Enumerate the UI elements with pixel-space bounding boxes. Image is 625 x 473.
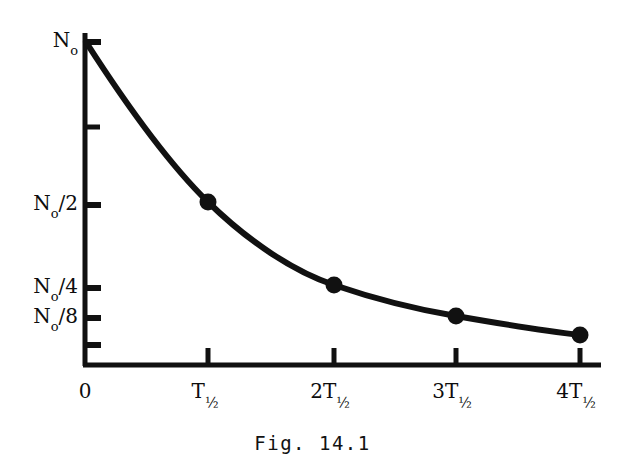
x-axis-ticks xyxy=(208,348,580,365)
x-label-2t-half-base: T xyxy=(323,379,336,403)
y-tick-label-n0-4: No/4 xyxy=(4,276,78,300)
y-tick-label-n0-8: No/8 xyxy=(4,306,78,330)
x-label-3t-half-prefix: 3 xyxy=(432,379,445,403)
x-label-t-half-base: T xyxy=(192,379,205,403)
x-label-4t-half-base: T xyxy=(569,379,582,403)
y-label-n0-subscript: o xyxy=(70,43,78,58)
x-tick-label-3t-half: 3T½ xyxy=(421,381,483,405)
x-label-2t-half-subscript: ½ xyxy=(336,395,350,411)
x-label-4t-half-subscript: ½ xyxy=(582,395,596,411)
x-label-3t-half-base: T xyxy=(445,379,458,403)
y-tick-label-n0: No xyxy=(26,30,78,54)
data-point-4t-half xyxy=(572,327,589,344)
data-point-markers xyxy=(200,194,589,344)
x-tick-label-0: 0 xyxy=(55,381,115,405)
y-label-n0-8-subscript: o xyxy=(51,319,59,334)
y-label-n0-2-suffix: /2 xyxy=(59,191,78,215)
data-point-3t-half xyxy=(448,308,465,325)
figure-container: No No/2 No/4 No/8 0 T½ 2T½ 3T½ 4T½ Fig. … xyxy=(0,0,625,473)
x-label-4t-half-prefix: 4 xyxy=(556,379,569,403)
y-label-n0-4-subscript: o xyxy=(51,289,59,304)
y-label-n0-8-suffix: /8 xyxy=(59,304,78,328)
figure-caption: Fig. 14.1 xyxy=(0,432,625,454)
y-label-n0-base: N xyxy=(53,28,71,52)
x-label-0-prefix: 0 xyxy=(79,379,92,403)
x-label-2t-half-prefix: 2 xyxy=(310,379,323,403)
y-label-n0-4-suffix: /4 xyxy=(59,274,78,298)
y-label-n0-2-base: N xyxy=(33,191,51,215)
y-label-n0-8-base: N xyxy=(33,304,51,328)
x-tick-label-2t-half: 2T½ xyxy=(299,381,361,405)
data-point-t-half xyxy=(200,194,217,211)
x-tick-label-t-half: T½ xyxy=(175,381,235,405)
data-point-2t-half xyxy=(326,277,343,294)
x-tick-label-4t-half: 4T½ xyxy=(545,381,607,405)
y-label-n0-4-base: N xyxy=(33,274,51,298)
y-tick-label-n0-2: No/2 xyxy=(4,193,78,217)
x-label-t-half-subscript: ½ xyxy=(205,395,219,411)
x-label-3t-half-subscript: ½ xyxy=(458,395,472,411)
y-label-n0-2-subscript: o xyxy=(51,206,59,221)
